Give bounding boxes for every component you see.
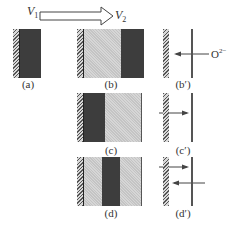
panel-b-label: (b) <box>96 78 126 90</box>
panel-c-label: (c) <box>96 144 126 156</box>
panel-a <box>13 29 41 78</box>
light-layer <box>83 157 102 206</box>
interface-line <box>191 157 193 206</box>
interface-line <box>191 29 193 78</box>
substrate-hatch <box>163 29 169 78</box>
panel-d <box>77 157 142 206</box>
ion-label: O2− <box>211 47 226 60</box>
panel-b-prime <box>163 29 193 78</box>
panel-a-label: (a) <box>13 78 43 90</box>
panel-b-prime-label: (b′) <box>168 78 198 90</box>
substrate-hatch <box>163 157 169 206</box>
hollow-arrow-icon <box>40 7 113 25</box>
panel-d-prime-label: (d′) <box>168 207 198 219</box>
light-layer <box>83 29 121 78</box>
substrate-hatch <box>163 93 169 142</box>
light-layer <box>105 93 142 142</box>
panel-c-prime-label: (c′) <box>168 144 198 156</box>
panel-d-label: (d) <box>96 207 126 219</box>
panel-d-prime <box>163 157 193 206</box>
dark-layer <box>102 157 120 206</box>
dark-layer <box>121 29 144 78</box>
ion-symbol: O <box>211 48 219 60</box>
light-layer <box>120 157 142 206</box>
panel-c-prime <box>163 93 193 142</box>
ion-charge: 2− <box>219 47 226 55</box>
panel-b <box>77 29 144 78</box>
interface-line <box>191 93 193 142</box>
panel-c <box>77 93 142 142</box>
dark-layer <box>83 93 105 142</box>
dark-layer <box>19 29 41 78</box>
